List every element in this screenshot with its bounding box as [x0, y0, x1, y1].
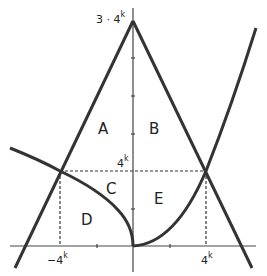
region-label-a: A — [98, 120, 108, 138]
y-label-top: 3 · 4k — [96, 11, 125, 26]
diagram-canvas — [0, 0, 267, 276]
x-label-right: 4k — [201, 252, 213, 267]
region-label-d: D — [81, 211, 93, 229]
y-label-mid: 4k — [117, 155, 129, 170]
left-line — [15, 21, 133, 268]
region-label-b: B — [149, 120, 159, 138]
x-label-left: −4k — [47, 252, 68, 267]
diagram: 3 · 4k 4k −4k 4k A B C D E — [0, 0, 267, 276]
right-line — [133, 21, 252, 268]
region-label-e: E — [154, 190, 163, 208]
region-label-c: C — [106, 180, 116, 198]
